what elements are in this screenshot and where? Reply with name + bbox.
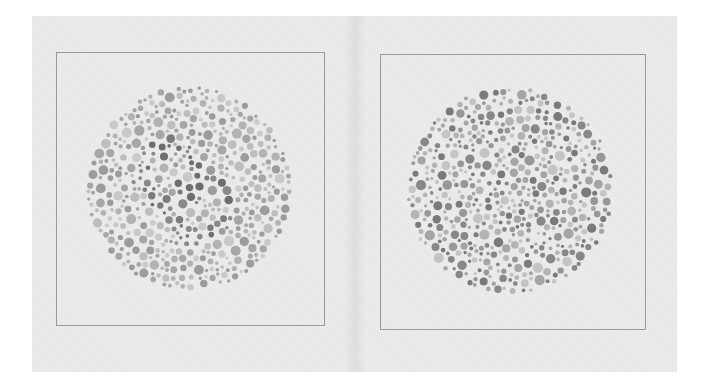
plate-dot [442,237,447,242]
plate-dot [596,153,605,162]
plate-dot [453,133,459,139]
plate-dot [119,144,123,148]
plate-dot [235,233,241,239]
plate-dot [508,153,512,157]
plate-dot [187,284,194,291]
plate-dot [605,184,612,191]
plate-dot [494,153,499,158]
plate-dot [443,118,447,122]
plate-dot [185,104,189,108]
plate-dot [168,206,173,211]
plate-dot [443,266,447,270]
plate-dot [459,145,462,148]
plate-dot [562,257,572,267]
plate-dot [563,178,568,183]
plate-dot [267,145,271,149]
plate-dot [415,197,421,203]
plate-dot [134,272,138,276]
plate-dot [224,196,233,205]
plate-dot [89,170,98,179]
plate-dot [512,233,515,236]
plate-dot [494,138,498,142]
plate-dot [494,286,501,293]
plate-dot [486,287,491,292]
plate-dot [418,146,423,151]
plate-dot [467,280,472,285]
plate-dot [109,168,114,173]
plate-dot [413,155,417,159]
plate-dot [90,213,94,217]
plate-dot [511,199,515,203]
plate-dot [146,229,155,238]
plate-dot [591,206,596,211]
plate-dot [150,113,155,118]
plate-dot [281,152,284,155]
plate-dot [208,186,217,195]
plate-dot [110,208,114,212]
plate-dot [275,220,281,226]
plate-dot [537,232,540,235]
plate-dot [478,114,484,120]
plate-dot [138,106,143,111]
plate-dot [234,99,238,103]
plate-dot [600,190,607,197]
plate-dot [560,146,563,149]
plate-dot [506,213,512,219]
plate-dot [144,179,151,186]
plate-dot [543,116,548,121]
plate-dot [510,169,518,177]
plate-dot [242,211,246,215]
plate-dot [252,136,256,140]
plate-dot [502,155,506,159]
plate-dot [174,241,178,245]
plate-dot [472,203,475,206]
plate-dot [225,226,229,230]
plate-dot [559,173,563,177]
plate-dot [198,222,206,230]
plate-dot [146,119,151,124]
plate-dot [186,218,190,222]
plate-dot [548,165,558,175]
plate-dot [479,246,484,251]
plate-dot [124,238,134,248]
plate-dot [168,184,172,188]
plate-dot [260,254,265,259]
plate-dot [206,166,215,175]
plate-dot [272,153,280,161]
plate-dot [472,134,476,138]
plate-dot [170,248,175,253]
plate-dot [246,260,254,268]
plate-dot [154,105,158,109]
plate-dot [484,270,490,276]
plate-dot [115,171,122,178]
plate-dot [533,263,543,273]
plate-dot [540,140,544,144]
plate-dot [203,130,213,140]
plate-dot [132,139,141,148]
plate-dot [193,227,198,232]
plate-dot [104,159,108,163]
plate-dot [545,100,550,105]
plate-dot [168,284,172,288]
plate-dot [281,187,285,191]
plate-dot [579,148,583,152]
plate-dot [156,130,165,139]
plate-dot [536,217,545,226]
plate-dot [263,123,267,127]
plate-dot [494,192,500,198]
plate-dot [166,130,170,134]
plate-dot [438,187,442,191]
plate-dot [582,229,588,235]
plate-dot [471,143,474,146]
plate-dot [124,113,127,116]
plate-dot [420,209,423,212]
plate-dot [483,258,490,265]
plate-dot [218,179,226,187]
plate-dot [118,217,122,221]
plate-dot [151,133,155,137]
plate-dot [247,116,253,122]
plate-dot [239,121,247,129]
plate-dot [208,259,214,265]
plate-dot [516,116,524,124]
plate-dot [514,216,521,223]
